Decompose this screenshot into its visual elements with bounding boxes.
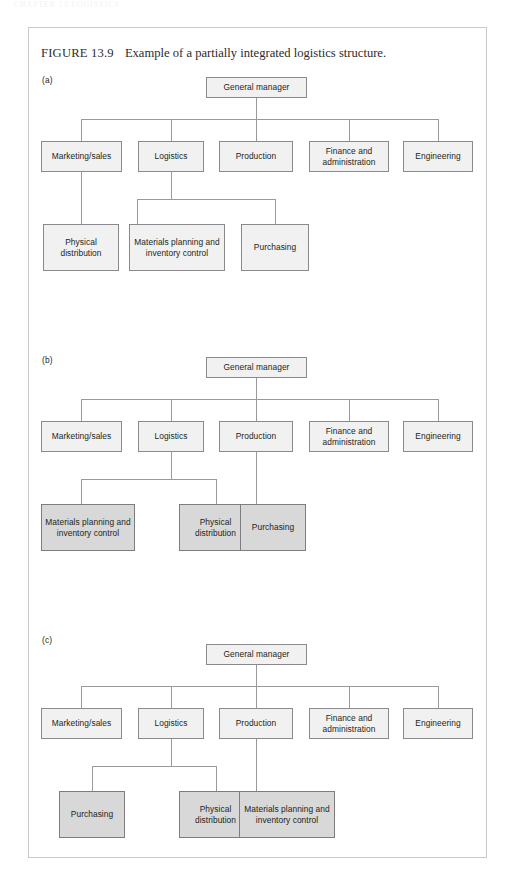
panel-b-connector-drop-4: [349, 399, 350, 421]
panel-c-connector-drop-1: [81, 686, 82, 708]
panel-b-node-logistics[interactable]: Logistics: [138, 421, 204, 452]
panel-a-connector-root-drop: [256, 98, 257, 119]
panel-b: (b) General manager Marketing/sales Logi…: [29, 352, 488, 582]
panel-b-connector-production-drop: [256, 452, 257, 504]
panel-a-connector-marketing-to-physical: [81, 172, 82, 224]
panel-b-node-materials-planning[interactable]: Materials planning and inventory control: [41, 504, 135, 551]
panel-a-node-finance-administration[interactable]: Finance and administration: [309, 141, 389, 172]
panel-a-node-logistics[interactable]: Logistics: [138, 141, 204, 172]
panel-c-connector-logistics-right: [216, 766, 217, 791]
panel-c-node-logistics[interactable]: Logistics: [138, 708, 204, 739]
panel-c-connector-root-drop: [256, 665, 257, 686]
page-running-header: CHAPTER 13 LOGISTICS: [14, 0, 120, 9]
panel-b-connector-drop-3: [256, 399, 257, 421]
figure-frame: FIGURE 13.9Example of a partially integr…: [28, 27, 487, 858]
panel-c-connector-drop-5: [438, 686, 439, 708]
panel-c-connector-production-drop: [256, 739, 257, 791]
panel-c-node-finance-administration[interactable]: Finance and administration: [309, 708, 389, 739]
panel-b-connector-drop-2: [171, 399, 172, 421]
panel-b-connector-logistics-right: [216, 479, 217, 504]
panel-b-connector-drop-5: [438, 399, 439, 421]
panel-a-node-marketing-sales[interactable]: Marketing/sales: [41, 141, 122, 172]
panel-a-node-purchasing[interactable]: Purchasing: [241, 224, 309, 271]
panel-a-label: (a): [42, 75, 53, 85]
panel-b-connector-logistics-stem: [171, 452, 172, 479]
panel-c-node-engineering[interactable]: Engineering: [403, 708, 473, 739]
panel-a-connector-drop-3: [256, 119, 257, 141]
panel-c-connector-logistics-left: [92, 766, 93, 791]
panel-c-node-production[interactable]: Production: [219, 708, 293, 739]
panel-b-connector-bus: [81, 399, 438, 400]
panel-c-connector-drop-4: [349, 686, 350, 708]
panel-b-connector-logistics-bus: [81, 479, 216, 480]
panel-a-connector-logistics-bus: [137, 199, 275, 200]
figure-caption: FIGURE 13.9Example of a partially integr…: [41, 46, 386, 61]
panel-c-connector-drop-2: [171, 686, 172, 708]
panel-b-connector-drop-1: [81, 399, 82, 421]
panel-a-connector-logistics-stem: [171, 172, 172, 199]
panel-a: (a) General manager Marketing/sales Logi…: [29, 72, 488, 302]
panel-b-label: (b): [42, 355, 53, 365]
panel-b-connector-logistics-left: [81, 479, 82, 504]
panel-c-node-general-manager[interactable]: General manager: [206, 644, 307, 665]
panel-a-connector-drop-4: [349, 119, 350, 141]
panel-a-connector-drop-2: [171, 119, 172, 141]
panel-c-connector-logistics-bus: [92, 766, 216, 767]
panel-a-connector-drop-5: [438, 119, 439, 141]
panel-a-connector-drop-1: [81, 119, 82, 141]
panel-b-node-general-manager[interactable]: General manager: [206, 357, 307, 378]
panel-c: (c) General manager Marketing/sales Logi…: [29, 632, 488, 872]
panel-c-node-purchasing[interactable]: Purchasing: [59, 791, 125, 838]
panel-a-node-physical-distribution[interactable]: Physical distribution: [43, 224, 119, 271]
panel-c-connector-logistics-stem: [171, 739, 172, 766]
figure-number: FIGURE 13.9: [41, 46, 114, 60]
figure-caption-text: Example of a partially integrated logist…: [125, 46, 386, 60]
panel-b-connector-root-drop: [256, 378, 257, 399]
panel-a-connector-logistics-right: [275, 199, 276, 224]
panel-c-connector-drop-3: [256, 686, 257, 708]
panel-c-node-materials-planning[interactable]: Materials planning and inventory control: [239, 791, 335, 838]
panel-c-node-marketing-sales[interactable]: Marketing/sales: [41, 708, 122, 739]
panel-a-node-materials-planning[interactable]: Materials planning and inventory control: [129, 224, 225, 271]
panel-b-node-purchasing[interactable]: Purchasing: [240, 504, 306, 551]
panel-a-connector-logistics-left: [137, 199, 138, 224]
panel-a-connector-bus: [81, 119, 438, 120]
panel-b-node-finance-administration[interactable]: Finance and administration: [309, 421, 389, 452]
panel-c-label: (c): [42, 635, 52, 645]
panel-a-node-general-manager[interactable]: General manager: [206, 77, 307, 98]
panel-b-node-engineering[interactable]: Engineering: [403, 421, 473, 452]
panel-c-connector-bus: [81, 686, 438, 687]
panel-b-node-marketing-sales[interactable]: Marketing/sales: [41, 421, 122, 452]
panel-a-node-production[interactable]: Production: [219, 141, 293, 172]
panel-b-node-production[interactable]: Production: [219, 421, 293, 452]
panel-a-node-engineering[interactable]: Engineering: [403, 141, 473, 172]
